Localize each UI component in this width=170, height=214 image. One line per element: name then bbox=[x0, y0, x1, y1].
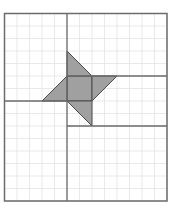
geometry-diagram bbox=[0, 0, 170, 214]
center-square-shape bbox=[67, 76, 92, 101]
